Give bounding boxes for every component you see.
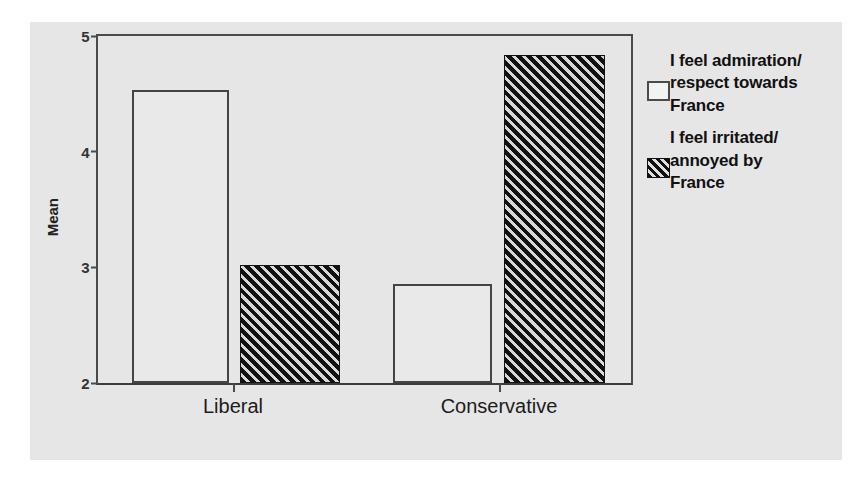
legend-label-irritated: I feel irritated/ annoyed by France — [670, 127, 837, 194]
legend-entry-irritated[interactable]: I feel irritated/ annoyed by France — [647, 127, 837, 194]
legend-label-admiration-line-1: I feel admiration/ — [670, 50, 837, 72]
legend-swatch-hatched-icon — [647, 158, 670, 178]
y-tick-2: 2 — [81, 375, 98, 392]
x-tick-mark-conservative — [499, 383, 501, 392]
y-tick-4: 4 — [81, 143, 98, 160]
plot-area: 5 4 3 2 Liberal Conservative — [96, 34, 633, 385]
chart-figure: Mean 5 4 3 2 Liberal Conservative — [30, 22, 842, 460]
y-axis-title: Mean — [44, 198, 64, 236]
y-tick-mark-5 — [91, 35, 98, 37]
x-axis-label-liberal: Liberal — [203, 395, 263, 418]
bar-conservative-admiration[interactable] — [393, 284, 492, 383]
legend-label-admiration-line-2: respect towards — [670, 72, 837, 94]
legend-label-admiration-line-3: France — [670, 95, 837, 117]
legend-label-irritated-line-2: annoyed by — [670, 150, 837, 172]
y-tick-mark-3 — [91, 266, 98, 268]
y-tick-label-2: 2 — [81, 375, 89, 392]
bar-liberal-irritated[interactable] — [240, 265, 340, 383]
legend-label-admiration: I feel admiration/ respect towards Franc… — [670, 50, 837, 117]
y-tick-mark-2 — [91, 382, 98, 384]
y-tick-label-5: 5 — [81, 28, 89, 45]
x-axis-label-conservative: Conservative — [441, 395, 558, 418]
y-tick-5: 5 — [81, 28, 98, 45]
x-tick-mark-liberal — [233, 383, 235, 392]
y-tick-label-4: 4 — [81, 143, 89, 160]
bar-liberal-admiration[interactable] — [132, 90, 229, 383]
chart-legend: I feel admiration/ respect towards Franc… — [647, 50, 837, 205]
legend-label-irritated-line-1: I feel irritated/ — [670, 127, 837, 149]
legend-swatch-open-icon — [647, 81, 670, 101]
y-tick-3: 3 — [81, 259, 98, 276]
y-tick-label-3: 3 — [81, 259, 89, 276]
legend-label-irritated-line-3: France — [670, 172, 837, 194]
legend-entry-admiration[interactable]: I feel admiration/ respect towards Franc… — [647, 50, 837, 117]
y-tick-mark-4 — [91, 151, 98, 153]
bar-conservative-irritated[interactable] — [504, 55, 605, 384]
